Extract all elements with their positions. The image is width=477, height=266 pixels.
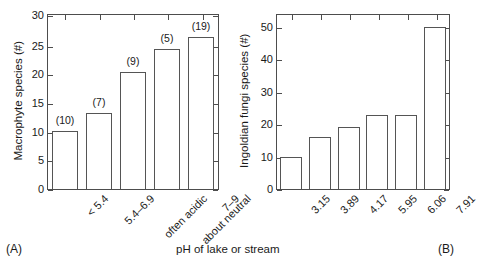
panel-b-bar-3 [366, 115, 388, 190]
panel-b-xlabel-1: 3.89 [338, 193, 361, 216]
panel-b-xlabel-0: 3.15 [309, 193, 332, 216]
panel-b-y-axis-title: Ingoldian fungi species (#) [239, 26, 251, 176]
panel-b-x-tick-labels: 3.15 3.89 4.17 5.95 6.06 7.91 [277, 189, 449, 243]
panel-a-ytick-label-20: 20 [32, 69, 44, 80]
panel-a-bar-4: (19) [188, 37, 214, 189]
panel-b-xlabel-2: 4.17 [367, 193, 390, 216]
panel-b-ytick-label-50: 50 [261, 22, 273, 33]
panel-b-ytick-label-30: 30 [261, 87, 273, 98]
panel-a-xlabel-0: < 5.4 [85, 193, 110, 218]
panel-b-bar-0 [280, 157, 302, 189]
panel-b-xlabel-text-1: 3.89 [338, 193, 361, 216]
panel-a-ytick-label-15: 15 [32, 98, 44, 109]
panel-b-xlabel-text-5: 7.91 [454, 193, 477, 216]
panel-b-bar-4 [395, 115, 417, 190]
panel-a-bar-3: (5) [154, 49, 180, 189]
panel-a-x-tick-labels: < 5.4 5.4–6.9 often acidic about neutral… [48, 189, 218, 243]
panel-a-xlabel-text-1: 5.4–6.9 [123, 193, 157, 227]
panel-a-ytick-label-0: 0 [38, 184, 44, 195]
panel-b-xlabel-3: 5.95 [396, 193, 419, 216]
panel-a-bars: (10) (7) (9) (5) (19) [48, 15, 218, 189]
panel-a-ytick-label-10: 10 [32, 127, 44, 138]
panel-a-ytick-label-5: 5 [38, 155, 44, 166]
panel-b-xlabel-5: 7.91 [454, 193, 477, 216]
panel-a-bar-annotation-1: (7) [93, 97, 106, 108]
panel-a-xlabel-text-0: < 5.4 [85, 193, 110, 218]
panel-b-xlabel-text-2: 4.17 [367, 193, 390, 216]
panel-b-bar-1 [309, 137, 331, 189]
panel-b-plot-area: 0 10 20 30 40 50 [276, 14, 450, 190]
panel-b-xlabel-text-4: 6.06 [425, 193, 448, 216]
panel-a-bar-annotation-0: (10) [56, 115, 75, 126]
panel-b-bar-5 [424, 27, 446, 189]
panel-b-ytick-label-0: 0 [267, 184, 273, 195]
panel-a-bar-1: (7) [86, 113, 112, 189]
panel-b-ytick-label-20: 20 [261, 119, 273, 130]
panel-a-bar-2: (9) [120, 72, 146, 189]
panel-b-plot-inner: 0 10 20 30 40 50 [277, 15, 449, 189]
panel-a-y-axis-title: Macrophyte species (#) [13, 26, 25, 176]
panel-b-xlabel-text-0: 3.15 [309, 193, 332, 216]
panel-a-xlabel-1: 5.4–6.9 [123, 193, 157, 227]
panel-a-bar-annotation-2: (9) [127, 56, 140, 67]
panel-a-ytick-label-30: 30 [32, 10, 44, 21]
panel-a-ytick-label-25: 25 [32, 41, 44, 52]
panel-b: Ingoldian fungi species (#) 0 10 20 30 4… [228, 0, 460, 266]
panel-b-ytick-label-10: 10 [261, 152, 273, 163]
panel-a-label: (A) [6, 243, 22, 255]
panel-a-plot-inner: 0 5 10 15 20 25 30 [48, 15, 218, 189]
panel-a-bar-0: (10) [52, 131, 78, 189]
panel-b-bar-2 [338, 127, 360, 189]
panel-a-bar-annotation-3: (5) [161, 33, 174, 44]
panel-a: Macrophyte species (#) 0 5 10 15 20 [0, 0, 228, 266]
panel-b-label: (B) [438, 243, 454, 255]
panel-b-ytick-label-40: 40 [261, 54, 273, 65]
panel-b-bars [277, 15, 449, 189]
panel-a-bar-annotation-4: (19) [192, 21, 211, 32]
panel-b-xlabel-text-3: 5.95 [396, 193, 419, 216]
panel-a-plot-area: 0 5 10 15 20 25 30 [47, 14, 219, 190]
panel-b-xlabel-4: 6.06 [425, 193, 448, 216]
